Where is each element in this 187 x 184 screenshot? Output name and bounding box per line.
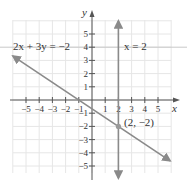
y-tick-label: −4 (78, 148, 88, 158)
x-tick-label: −3 (48, 104, 58, 114)
axes (10, 10, 180, 180)
x-tick-label: −4 (34, 104, 44, 114)
x-axis-label: x (171, 102, 177, 114)
equation-label-vertical: x = 2 (124, 40, 147, 52)
x-tick-label: 1 (103, 104, 108, 114)
intersection-point-label: (2, −2) (124, 116, 154, 129)
equation-label-line: 2x + 3y = −2 (13, 40, 70, 52)
y-tick-label: 5 (84, 29, 89, 39)
y-tick-label: −5 (78, 161, 88, 171)
coordinate-plane: −5−4−3−2−112345−5−4−3−2−112345 x y 2x + … (0, 0, 187, 184)
y-tick-label: −2 (78, 121, 88, 131)
y-tick-label: 4 (84, 42, 89, 52)
x-tick-label: −5 (21, 104, 31, 114)
y-axis-label: y (81, 6, 87, 18)
y-tick-label: −3 (78, 135, 88, 145)
graph-container: −5−4−3−2−112345−5−4−3−2−112345 x y 2x + … (0, 0, 187, 184)
x-tick-label: 4 (143, 104, 148, 114)
x-tick-label: 3 (129, 104, 134, 114)
y-tick-label: 1 (84, 82, 89, 92)
y-axis-arrow-icon (90, 10, 95, 17)
x-tick-label: 5 (156, 104, 161, 114)
x-tick-label: −2 (61, 104, 71, 114)
y-tick-label: 2 (84, 69, 89, 79)
y-tick-label: 3 (84, 55, 89, 65)
y-tick-label: −1 (78, 108, 88, 118)
intersection-point (116, 124, 121, 129)
